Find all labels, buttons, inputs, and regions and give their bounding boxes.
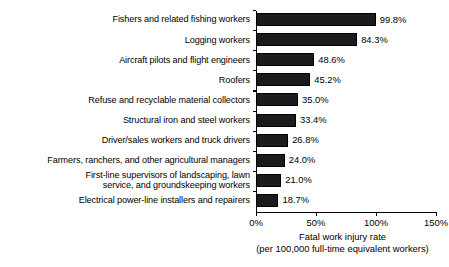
- bar: [256, 73, 310, 86]
- y-axis-tick: [253, 131, 257, 132]
- bar-value-label: 33.4%: [300, 113, 327, 126]
- bar: [256, 194, 278, 207]
- bar: [256, 134, 288, 147]
- x-axis-title: Fatal work injury rate (per 100,000 full…: [236, 231, 449, 254]
- bar: [256, 33, 357, 46]
- y-axis-tick: [253, 70, 257, 71]
- x-axis-tick: [316, 212, 317, 216]
- x-axis-title-line1: Fatal work injury rate: [236, 231, 449, 243]
- category-label: Driver/sales workers and truck drivers: [102, 135, 250, 145]
- y-axis-tick: [253, 171, 257, 172]
- x-axis-tick-label: 50%: [294, 217, 338, 228]
- bar-value-label: 24.0%: [289, 153, 316, 166]
- bar: [256, 93, 298, 106]
- y-axis-tick: [253, 30, 257, 31]
- bar: [256, 154, 285, 167]
- y-axis-tick: [253, 111, 257, 112]
- y-axis-tick: [253, 50, 257, 51]
- bar-value-label: 48.6%: [318, 53, 345, 66]
- category-label: Refuse and recyclable material collector…: [88, 95, 250, 105]
- x-axis-line: [256, 212, 436, 213]
- category-label: Aircraft pilots and flight engineers: [119, 55, 250, 65]
- bar-value-label: 35.0%: [302, 93, 329, 106]
- category-label: Structural iron and steel workers: [123, 115, 250, 125]
- category-label: Farmers, ranchers, and other agricultura…: [47, 155, 250, 165]
- bar-value-label: 18.7%: [282, 193, 309, 206]
- bar-value-label: 99.8%: [380, 13, 407, 26]
- category-label: Logging workers: [185, 35, 250, 45]
- category-label: Roofers: [219, 75, 250, 85]
- bar: [256, 13, 376, 26]
- y-axis-tick: [253, 191, 257, 192]
- category-label: Fishers and related fishing workers: [112, 14, 250, 24]
- x-axis-tick-label: 0%: [234, 217, 278, 228]
- bar: [256, 174, 281, 187]
- category-axis-labels: Fishers and related fishing workersLoggi…: [0, 0, 253, 213]
- bar-value-label: 21.0%: [285, 173, 312, 186]
- bar-value-label: 26.8%: [292, 133, 319, 146]
- category-label: First-line supervisors of landscaping, l…: [85, 170, 250, 190]
- x-axis-tick: [376, 212, 377, 216]
- bar: [256, 114, 296, 127]
- fatal-work-injury-rate-bar-chart: Fishers and related fishing workersLoggi…: [0, 0, 449, 267]
- bar: [256, 53, 314, 66]
- x-axis-tick-label: 100%: [354, 217, 398, 228]
- x-axis-title-line2: (per 100,000 full-time equivalent worker…: [236, 243, 449, 255]
- category-label: Electrical power-line installers and rep…: [79, 195, 250, 205]
- x-axis-tick: [436, 212, 437, 216]
- y-axis-tick: [253, 10, 257, 11]
- y-axis-tick: [253, 90, 257, 91]
- bar-value-label: 45.2%: [314, 73, 341, 86]
- y-axis-tick: [253, 151, 257, 152]
- x-axis-tick: [256, 212, 257, 216]
- bar-value-label: 84.3%: [361, 33, 388, 46]
- plot-area: 99.8%84.3%48.6%45.2%35.0%33.4%26.8%24.0%…: [256, 11, 436, 212]
- x-axis-tick-label: 150%: [414, 217, 449, 228]
